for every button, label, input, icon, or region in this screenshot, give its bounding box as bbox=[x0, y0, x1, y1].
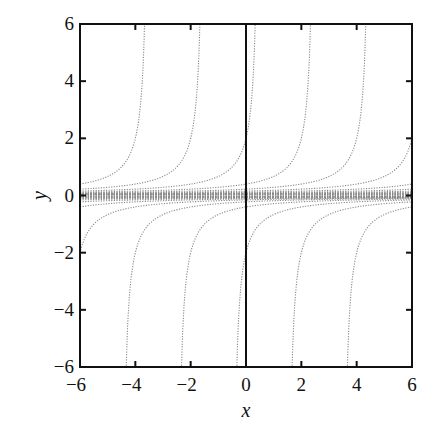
x-tick-label: 4 bbox=[352, 374, 362, 395]
y-axis-label: y bbox=[28, 191, 51, 202]
solution-curve bbox=[292, 202, 412, 381]
solution-curve bbox=[80, 10, 311, 192]
y-tick-label: −6 bbox=[54, 356, 74, 377]
y-tick-label: −2 bbox=[54, 242, 74, 263]
x-tick-labels: −6−4−20246 bbox=[66, 374, 417, 395]
y-tick-label: 6 bbox=[65, 13, 75, 34]
y-tick-label: 4 bbox=[65, 70, 75, 91]
solution-curve bbox=[181, 199, 412, 381]
solution-curve bbox=[80, 10, 200, 189]
solution-curve bbox=[80, 10, 145, 184]
solution-curve bbox=[236, 200, 412, 381]
x-tick-label: 0 bbox=[241, 374, 251, 395]
y-tick-label: 2 bbox=[65, 127, 75, 148]
y-tick-label: 0 bbox=[65, 185, 75, 206]
solution-curves-chart: −6−4−20246 −6−4−20246 x y bbox=[0, 0, 439, 435]
x-tick-label: −4 bbox=[121, 374, 142, 395]
x-axis-label: x bbox=[241, 399, 251, 421]
x-tick-label: 2 bbox=[297, 374, 307, 395]
x-tick-label: −6 bbox=[66, 374, 86, 395]
solution-curve bbox=[80, 10, 256, 191]
solution-curve bbox=[347, 207, 412, 381]
x-tick-label: −2 bbox=[177, 374, 197, 395]
x-tick-label: 6 bbox=[407, 374, 417, 395]
y-tick-label: −4 bbox=[54, 299, 75, 320]
y-tick-labels: −6−4−20246 bbox=[54, 13, 75, 377]
